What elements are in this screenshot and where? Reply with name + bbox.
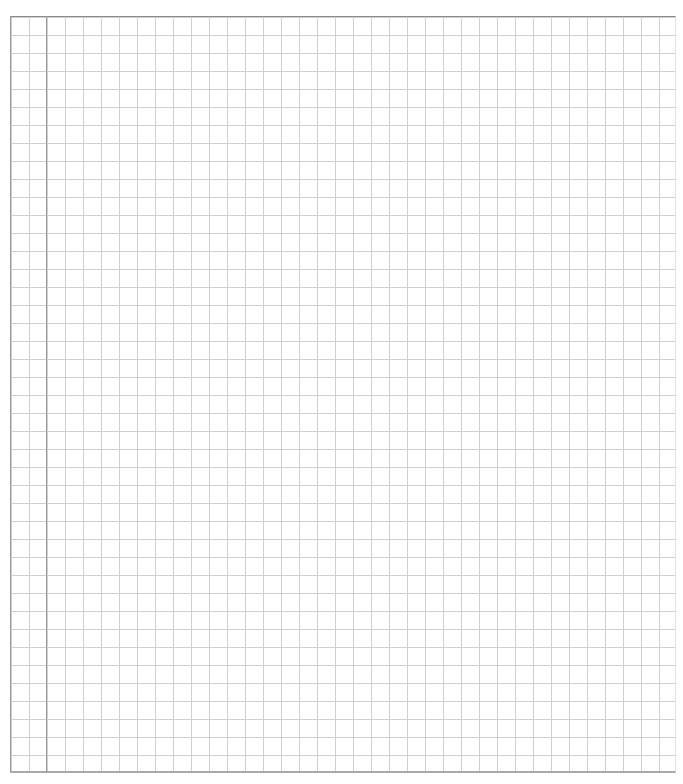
margin-line <box>46 16 47 773</box>
graph-paper-grid <box>10 16 676 773</box>
